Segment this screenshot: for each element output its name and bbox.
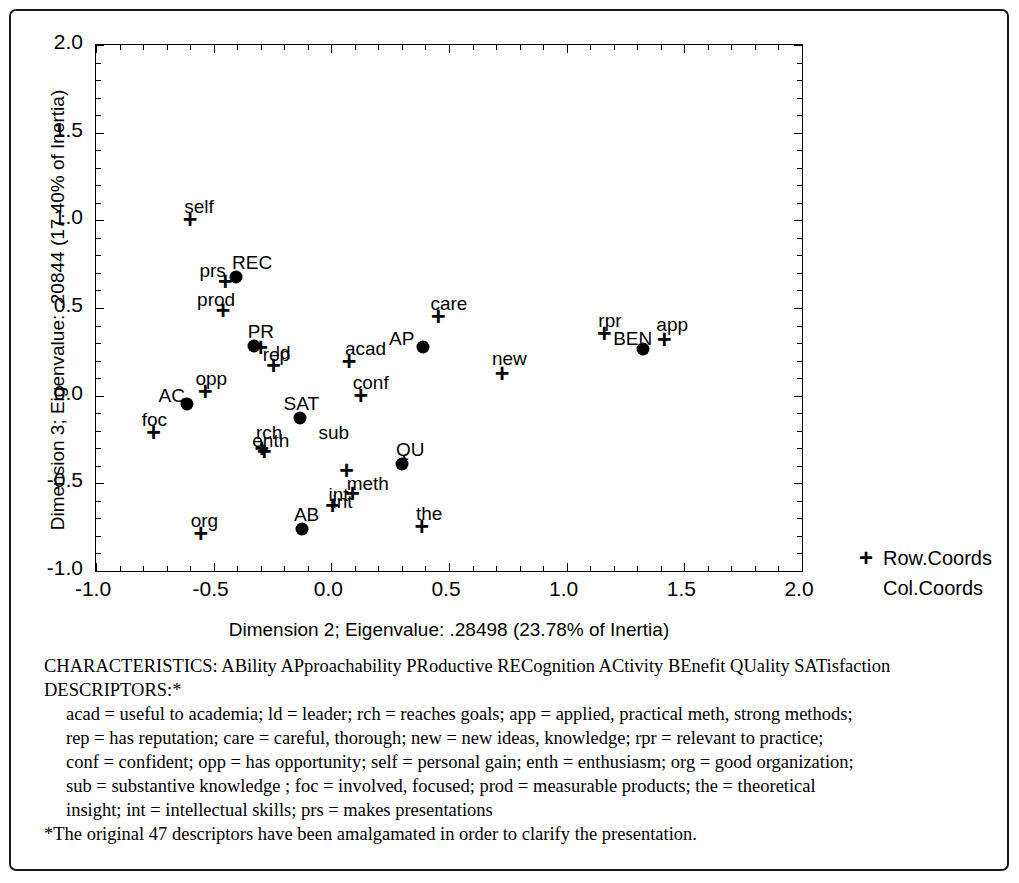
data-point-label: care bbox=[430, 294, 467, 313]
footnote-line-4: rep = has reputation; care = careful, th… bbox=[44, 726, 999, 750]
y-axis-tick bbox=[794, 396, 802, 397]
x-axis-tick bbox=[778, 45, 779, 50]
y-axis-tick bbox=[96, 396, 104, 397]
x-axis-tick bbox=[190, 45, 191, 50]
y-axis-tick bbox=[794, 45, 802, 46]
data-point-label: app bbox=[656, 315, 688, 334]
legend-item-col-coords: Col.Coords bbox=[849, 573, 992, 603]
plot-area: +self+prs+prod+rep+ld+acad+care+rpr+app+… bbox=[95, 44, 803, 572]
y-axis-tick bbox=[797, 115, 802, 116]
x-axis-tick bbox=[590, 566, 591, 571]
legend-label-row-coords: Row.Coords bbox=[883, 547, 992, 570]
x-axis-tick bbox=[637, 45, 638, 50]
x-axis-tick-label: 1.5 bbox=[667, 577, 696, 601]
y-axis-tick bbox=[797, 168, 802, 169]
y-axis-tick bbox=[797, 150, 802, 151]
x-axis-tick bbox=[167, 45, 168, 50]
y-axis-tick bbox=[797, 501, 802, 502]
y-axis-tick bbox=[794, 571, 802, 572]
data-point-label: sub bbox=[318, 423, 349, 442]
y-axis-tick bbox=[797, 466, 802, 467]
x-axis-tick bbox=[120, 566, 121, 571]
x-axis-tick bbox=[778, 566, 779, 571]
y-axis-tick bbox=[794, 220, 802, 221]
x-axis-tick bbox=[543, 566, 544, 571]
data-point-label: prod bbox=[197, 290, 235, 309]
x-axis-tick-label: -0.5 bbox=[193, 577, 229, 601]
y-axis-tick bbox=[96, 431, 101, 432]
x-axis-tick bbox=[284, 45, 285, 50]
y-axis-tick bbox=[96, 45, 104, 46]
footnote-line-asterisk: *The original 47 descriptors have been a… bbox=[44, 822, 999, 846]
y-axis-tick bbox=[797, 80, 802, 81]
y-axis-tick-label: 0.0 bbox=[35, 381, 83, 405]
legend-item-row-coords: + Row.Coords bbox=[849, 543, 992, 573]
y-axis-tick bbox=[96, 133, 104, 134]
data-point-label: QU bbox=[396, 440, 425, 459]
chart-legend: + Row.Coords Col.Coords bbox=[849, 543, 992, 603]
x-axis-tick-label: 1.0 bbox=[549, 577, 578, 601]
y-axis-tick bbox=[96, 361, 101, 362]
x-axis-tick bbox=[143, 45, 144, 50]
x-axis-tick-label: -1.0 bbox=[75, 577, 111, 601]
y-axis-tick bbox=[797, 290, 802, 291]
y-axis-tick-label: -1.0 bbox=[35, 556, 83, 580]
x-axis-tick bbox=[614, 566, 615, 571]
y-axis-tick bbox=[797, 413, 802, 414]
y-axis-tick bbox=[797, 448, 802, 449]
y-axis-tick bbox=[96, 308, 104, 309]
x-axis-tick bbox=[96, 563, 97, 571]
y-axis-tick bbox=[797, 343, 802, 344]
y-axis-tick bbox=[96, 98, 101, 99]
x-axis-tick bbox=[567, 563, 568, 571]
data-point-label: foc bbox=[142, 410, 167, 429]
plus-marker-icon: + bbox=[849, 546, 883, 570]
x-axis-tick bbox=[167, 566, 168, 571]
x-axis-tick bbox=[473, 45, 474, 50]
x-axis-tick bbox=[308, 566, 309, 571]
x-axis-tick bbox=[708, 566, 709, 571]
data-point-label: self bbox=[184, 197, 214, 216]
x-axis-tick bbox=[755, 566, 756, 571]
y-axis-tick bbox=[96, 273, 101, 274]
y-axis-tick bbox=[794, 483, 802, 484]
x-axis-tick bbox=[496, 566, 497, 571]
y-axis-tick-label: -0.5 bbox=[35, 468, 83, 492]
x-axis-tick bbox=[378, 566, 379, 571]
x-axis-tick bbox=[496, 45, 497, 50]
y-axis-tick bbox=[96, 115, 101, 116]
data-point-label: REC bbox=[232, 253, 272, 272]
x-axis-tick bbox=[284, 566, 285, 571]
y-axis-tick bbox=[96, 80, 101, 81]
y-axis-tick bbox=[797, 553, 802, 554]
y-axis-tick bbox=[797, 361, 802, 362]
y-axis-tick-label: 1.5 bbox=[35, 118, 83, 142]
x-axis-tick bbox=[402, 566, 403, 571]
figure-frame: Dimension 3; Eigenvalue: .20844 (17.40% … bbox=[9, 9, 1009, 871]
x-axis-tick bbox=[520, 566, 521, 571]
x-axis-tick bbox=[543, 45, 544, 50]
x-axis-tick bbox=[449, 45, 450, 53]
y-axis-tick bbox=[96, 518, 101, 519]
y-axis-tick-label: 0.5 bbox=[35, 293, 83, 317]
y-axis-tick bbox=[96, 290, 101, 291]
data-point-label: AC bbox=[159, 386, 185, 405]
x-axis-tick bbox=[755, 45, 756, 50]
x-axis-tick bbox=[237, 566, 238, 571]
x-axis-tick bbox=[331, 45, 332, 53]
data-point-label: PR bbox=[248, 322, 274, 341]
y-axis-tick bbox=[794, 308, 802, 309]
data-point-label: org bbox=[191, 511, 218, 530]
x-axis-tick bbox=[661, 45, 662, 50]
y-axis-tick bbox=[96, 220, 104, 221]
data-point-label: prs bbox=[199, 261, 225, 280]
x-axis-tick bbox=[731, 566, 732, 571]
y-axis-tick bbox=[797, 98, 802, 99]
x-axis-tick bbox=[120, 45, 121, 50]
y-axis-tick bbox=[797, 378, 802, 379]
y-axis-tick bbox=[96, 553, 101, 554]
x-axis-tick bbox=[214, 45, 215, 53]
y-axis-tick-label: 2.0 bbox=[35, 30, 83, 54]
y-axis-tick bbox=[96, 536, 101, 537]
x-axis-tick-label: 0.5 bbox=[431, 577, 460, 601]
